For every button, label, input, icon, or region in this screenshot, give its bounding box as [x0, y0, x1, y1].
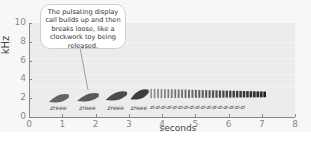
- y-tick-mark: [29, 61, 32, 62]
- x-tick-mark: [62, 114, 63, 117]
- y-tick-label: 8: [12, 37, 26, 46]
- bottom-margin: [0, 132, 311, 141]
- x-tick-label: 6: [222, 120, 236, 129]
- x-tick-label: 1: [55, 120, 69, 129]
- x-axis-label: seconds: [148, 123, 208, 133]
- x-axis: [29, 117, 295, 118]
- pulse-train: [150, 89, 266, 98]
- y-tick-mark: [29, 117, 32, 118]
- y-axis-label: kHz: [0, 30, 11, 60]
- y-tick-label: 10: [12, 18, 26, 27]
- x-tick-mark: [195, 114, 196, 117]
- y-tick-mark: [29, 79, 32, 80]
- x-tick-mark: [162, 114, 163, 117]
- x-tick-label: 0: [22, 120, 36, 129]
- syllable-label: zreee: [107, 104, 124, 111]
- x-tick-mark: [96, 114, 97, 117]
- syllable-label: zreee: [50, 104, 67, 111]
- figure: 0246810 012345678 kHz seconds zreeezreee…: [0, 0, 311, 141]
- x-tick-label: 3: [122, 120, 136, 129]
- x-tick-mark: [295, 114, 296, 117]
- x-tick-mark: [29, 114, 30, 117]
- y-tick-mark: [29, 42, 32, 43]
- x-tick-mark: [262, 114, 263, 117]
- y-tick-label: 4: [12, 74, 26, 83]
- y-tick-mark: [29, 98, 32, 99]
- x-tick-label: 2: [89, 120, 103, 129]
- syllable-label: zreee: [79, 104, 96, 111]
- x-tick-mark: [229, 114, 230, 117]
- x-tick-label: 7: [255, 120, 269, 129]
- y-tick-mark: [29, 23, 32, 24]
- x-tick-mark: [129, 114, 130, 117]
- y-axis: [29, 23, 30, 118]
- pulse-train-label: zi-zi-zi-zi-zi-zi-zi-zi-zi-zi-zi-zi-zi-z…: [150, 104, 245, 110]
- syllable-label: zreee: [131, 104, 148, 111]
- syllable-blobs: [49, 89, 149, 102]
- annotation-callout: The pulsating display call builds up and…: [40, 4, 126, 49]
- x-tick-label: 8: [288, 120, 302, 129]
- y-tick-label: 2: [12, 93, 26, 102]
- y-tick-label: 6: [12, 56, 26, 65]
